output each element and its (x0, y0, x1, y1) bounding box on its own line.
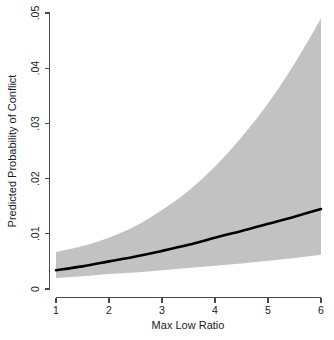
x-tick-label: 6 (318, 304, 324, 316)
chart-figure: 0.01.02.03.04.05 123456 Predicted Probab… (0, 0, 334, 340)
y-tick-label: .01 (29, 226, 41, 241)
x-tick-label: 4 (212, 304, 218, 316)
y-tick-label: .02 (29, 171, 41, 186)
y-axis-title: Predicted Probability of Conflict (6, 75, 18, 228)
x-tick-label: 5 (265, 304, 271, 316)
x-tick-label: 3 (159, 304, 165, 316)
x-tick-label: 2 (106, 304, 112, 316)
x-axis-title: Max Low Ratio (152, 319, 225, 331)
y-tick-label: 0 (29, 286, 41, 292)
y-tick-label: .03 (29, 116, 41, 131)
x-tick-label: 1 (53, 304, 59, 316)
predicted-probability-plot: 0.01.02.03.04.05 123456 Predicted Probab… (0, 0, 334, 340)
y-tick-label: .04 (29, 61, 41, 76)
y-tick-label: .05 (29, 6, 41, 21)
